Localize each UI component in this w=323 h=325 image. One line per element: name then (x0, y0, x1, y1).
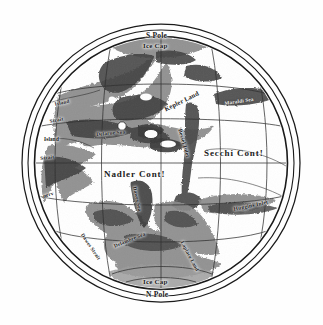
label-ice-cap-top: Ice Cap (143, 42, 168, 50)
label-island-lower: Island (44, 136, 59, 142)
label-secchi-continent: Secchi Cont! (204, 148, 264, 158)
label-south-pole: S Pole (146, 31, 167, 40)
label-north-pole: N Pole (146, 290, 168, 299)
label-ice-cap-bottom: Ice Cap (143, 278, 168, 286)
label-madler-continent: Nadler Cont! (104, 169, 165, 179)
mars-map: S Pole Ice Cap Ice Cap N Pole Secchi Con… (0, 0, 323, 325)
